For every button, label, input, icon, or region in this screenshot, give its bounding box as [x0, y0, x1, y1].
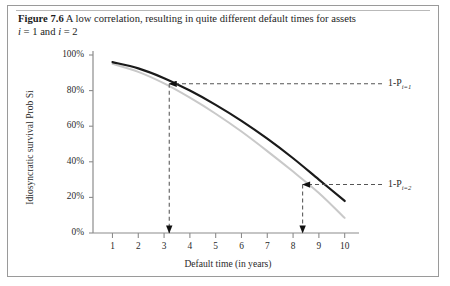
caption-conn: = 1 and: [21, 26, 58, 37]
caption-tail: = 2: [61, 26, 78, 37]
figure-frame: Figure 7.6 A low correlation, resulting …: [7, 5, 439, 277]
figure-caption-text: A low correlation, resulting in quite di…: [66, 13, 356, 24]
figure-caption: Figure 7.6 A low correlation, resulting …: [18, 13, 432, 38]
caption-divider: [16, 10, 430, 11]
figure-number: Figure 7.6: [18, 13, 64, 24]
